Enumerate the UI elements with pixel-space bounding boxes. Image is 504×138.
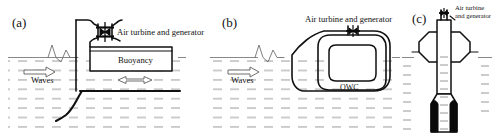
waves-label-a: Waves [31,75,54,85]
turbine-label-line-2-c: and generator [455,12,492,19]
turbine-label-b: Air turbine and generator [305,14,392,24]
waves-label-b: Waves [231,75,254,85]
panel-c: (c) Air turbine and generator [402,4,492,132]
owc-duct-top-a [76,20,98,26]
turbine-duct-top-right-a [112,20,122,26]
panel-a: (a) Air turbine and generator Buoyancy W… [8,15,204,134]
figure-owc-converter-types: (a) Air turbine and generator Buoyancy W… [0,0,504,138]
panel-label-a: (a) [12,15,26,30]
turbine-symbol-c [439,8,449,18]
turbine-label-line-1-c: Air turbine [455,4,484,11]
panel-b: (b) Air turbine and generator OWC Waves [210,14,400,134]
ballast-block-left-c [431,101,438,132]
buoyancy-label-a: Buoyancy [118,55,154,65]
turbine-duct-bottom-left-a [90,38,98,47]
panel-label-c: (c) [412,11,426,26]
ballast-block-right-c [450,101,457,132]
turbine-label-a: Air turbine and generator [117,27,204,37]
owc-air-chamber-b [329,45,376,81]
figure-canvas: (a) Air turbine and generator Buoyancy W… [0,0,504,138]
panel-label-b: (b) [222,15,237,30]
turbine-duct-bottom-right-a [112,38,120,41]
owc-label-b: OWC [340,83,359,92]
